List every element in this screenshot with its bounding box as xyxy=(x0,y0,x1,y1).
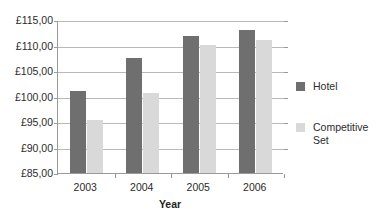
legend-label-competitive-set: Competitive Set xyxy=(313,121,382,147)
plot-area xyxy=(57,21,283,174)
y-axis-tick-label: £95,00 xyxy=(21,117,53,128)
x-axis-tick-label-2006: 2006 xyxy=(227,181,284,193)
y-axis-tick-mark xyxy=(54,47,58,48)
bar-chart: £85,00£90,00£95,00£100,00£105,00£110,00£… xyxy=(0,0,382,221)
y-axis-tick-mark-right xyxy=(284,47,288,48)
gridline xyxy=(58,21,284,22)
y-axis-tick-mark-right xyxy=(284,98,288,99)
y-axis-tick-mark-right xyxy=(284,21,288,22)
x-axis-tick-label-2004: 2004 xyxy=(114,181,171,193)
x-axis-tick-mark xyxy=(228,174,229,178)
bar-competitive-set-2006 xyxy=(256,40,272,173)
bar-hotel-2003 xyxy=(70,91,86,173)
x-axis-tick-mark xyxy=(284,174,285,178)
bar-hotel-2005 xyxy=(183,36,199,173)
legend-swatch-hotel-icon xyxy=(296,82,305,91)
y-axis-tick-label: £105,00 xyxy=(15,66,53,77)
y-axis-tick-label: £100,00 xyxy=(15,92,53,103)
y-axis-tick-mark-right xyxy=(284,123,288,124)
bar-hotel-2006 xyxy=(239,30,255,173)
x-axis-tick-label-2003: 2003 xyxy=(57,181,114,193)
legend-label-hotel: Hotel xyxy=(313,80,338,93)
y-axis-tick-mark xyxy=(54,72,58,73)
y-axis-tick-mark xyxy=(54,149,58,150)
y-axis-tick-label: £115,00 xyxy=(16,15,53,26)
bar-competitive-set-2003 xyxy=(87,120,103,173)
chart-legend: Hotel Competitive Set xyxy=(296,80,382,175)
y-axis-tick-mark xyxy=(54,98,58,99)
legend-item-hotel: Hotel xyxy=(296,80,382,93)
y-axis-tick-mark xyxy=(54,174,58,175)
bar-competitive-set-2004 xyxy=(143,93,159,173)
y-axis-tick-mark-right xyxy=(284,149,288,150)
bar-hotel-2004 xyxy=(126,58,142,173)
y-axis-tick-label: £90,00 xyxy=(21,143,53,154)
x-axis-title: Year xyxy=(57,198,283,210)
y-axis-tick-mark xyxy=(54,123,58,124)
y-axis-tick-label: £110,00 xyxy=(16,41,53,52)
x-axis-tick-mark xyxy=(171,174,172,178)
y-axis-tick-label: £85,00 xyxy=(21,168,53,179)
legend-item-competitive-set: Competitive Set xyxy=(296,121,382,147)
y-axis-tick-mark-right xyxy=(284,72,288,73)
x-axis-tick-label-2005: 2005 xyxy=(170,181,227,193)
x-axis-tick-mark xyxy=(115,174,116,178)
bar-competitive-set-2005 xyxy=(200,45,216,173)
y-axis-tick-mark xyxy=(54,21,58,22)
legend-swatch-competitive-set-icon xyxy=(296,123,305,132)
